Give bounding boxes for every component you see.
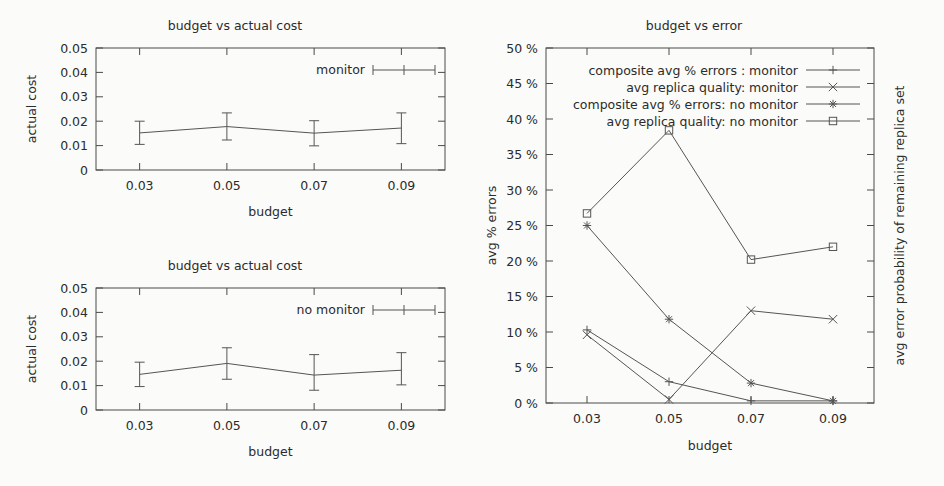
y-tick-label: 0.05 bbox=[60, 281, 88, 296]
y-axis-label: actual cost bbox=[24, 315, 39, 383]
chart-budget-vs-error: budget vs error 0 %5 %10 %15 %20 %25 %30… bbox=[474, 18, 944, 480]
y-tick-label: 0.04 bbox=[60, 65, 88, 80]
x-tick-label: 0.07 bbox=[300, 178, 328, 193]
error-bar bbox=[309, 355, 319, 391]
chart-title: budget vs actual cost bbox=[0, 18, 470, 33]
y-tick-label: 50 % bbox=[506, 41, 538, 56]
y-tick-label: 0.01 bbox=[60, 138, 88, 153]
y-tick-label: 5 % bbox=[514, 360, 538, 375]
x-tick-label: 0.05 bbox=[655, 411, 683, 426]
y-tick-label: 0.03 bbox=[60, 329, 88, 344]
legend-label: composite avg % errors : monitor bbox=[589, 63, 799, 78]
x-tick-label: 0.09 bbox=[819, 411, 847, 426]
y-tick-label: 0 bbox=[80, 403, 88, 418]
y-tick-label: 45 % bbox=[506, 76, 538, 91]
series-line bbox=[140, 127, 402, 134]
series-line bbox=[587, 311, 833, 400]
marker-star bbox=[665, 315, 673, 323]
marker-plus bbox=[665, 378, 673, 386]
y-tick-label: 0.04 bbox=[60, 305, 88, 320]
y-tick-label: 10 % bbox=[506, 325, 538, 340]
marker-plus bbox=[829, 66, 837, 74]
plot-frame bbox=[96, 288, 445, 410]
legend-label: monitor bbox=[316, 62, 366, 77]
error-bar bbox=[396, 353, 406, 385]
series-line bbox=[587, 226, 833, 401]
marker-star bbox=[829, 397, 837, 405]
legend-sample bbox=[806, 83, 860, 91]
legend-sample-errorbar bbox=[373, 305, 435, 315]
x-tick-label: 0.05 bbox=[213, 418, 241, 433]
y-tick-label: 0.05 bbox=[60, 41, 88, 56]
marker-star bbox=[829, 100, 837, 108]
chart-budget-vs-actual-cost-monitor: budget vs actual cost 00.010.020.030.040… bbox=[0, 18, 470, 223]
y-tick-label: 20 % bbox=[506, 254, 538, 269]
y-tick-label: 0.01 bbox=[60, 378, 88, 393]
y-tick-label: 40 % bbox=[506, 112, 538, 127]
y-tick-label: 0.02 bbox=[60, 354, 88, 369]
y-tick-label: 0 % bbox=[514, 396, 538, 411]
x-tick-label: 0.07 bbox=[737, 411, 765, 426]
plot-area-error: 0 %5 %10 %15 %20 %25 %30 %35 %40 %45 %50… bbox=[474, 18, 944, 478]
y-axis-label-left: avg % errors bbox=[484, 186, 499, 266]
plot-area-no-monitor: 00.010.020.030.040.050.030.050.070.09bud… bbox=[0, 258, 470, 463]
y-tick-label: 25 % bbox=[506, 218, 538, 233]
x-tick-label: 0.03 bbox=[126, 418, 154, 433]
x-tick-label: 0.07 bbox=[300, 418, 328, 433]
y-axis-label: actual cost bbox=[24, 75, 39, 143]
series-line bbox=[587, 330, 833, 401]
marker-star bbox=[747, 379, 755, 387]
x-tick-label: 0.05 bbox=[213, 178, 241, 193]
chart-title: budget vs error bbox=[484, 18, 904, 33]
legend-sample-errorbar bbox=[373, 65, 435, 75]
series-line bbox=[587, 130, 833, 259]
x-tick-label: 0.09 bbox=[387, 418, 415, 433]
x-axis-label: budget bbox=[248, 204, 292, 219]
x-axis-label: budget bbox=[248, 444, 292, 459]
series-line bbox=[140, 363, 402, 375]
chart-budget-vs-actual-cost-no-monitor: budget vs actual cost 00.010.020.030.040… bbox=[0, 258, 470, 463]
y-axis-label-right: avg error probability of remaining repli… bbox=[892, 85, 907, 365]
y-tick-label: 15 % bbox=[506, 289, 538, 304]
plot-area-monitor: 00.010.020.030.040.050.030.050.070.09bud… bbox=[0, 18, 470, 223]
marker-plus bbox=[583, 326, 591, 334]
marker-star bbox=[583, 221, 591, 229]
legend-sample bbox=[806, 100, 860, 108]
legend-label: avg replica quality: no monitor bbox=[607, 114, 799, 129]
x-tick-label: 0.03 bbox=[573, 411, 601, 426]
legend-sample bbox=[806, 117, 860, 124]
x-tick-label: 0.09 bbox=[387, 178, 415, 193]
chart-title: budget vs actual cost bbox=[0, 258, 470, 273]
legend-label: avg replica quality: monitor bbox=[626, 80, 799, 95]
legend-sample bbox=[806, 66, 860, 74]
y-tick-label: 0 bbox=[80, 163, 88, 178]
legend-label: composite avg % errors: no monitor bbox=[573, 97, 799, 112]
y-tick-label: 30 % bbox=[506, 183, 538, 198]
marker-plus bbox=[747, 397, 755, 405]
y-tick-label: 35 % bbox=[506, 147, 538, 162]
y-tick-label: 0.03 bbox=[60, 89, 88, 104]
plot-frame bbox=[96, 48, 445, 170]
legend-label: no monitor bbox=[297, 302, 366, 317]
y-tick-label: 0.02 bbox=[60, 114, 88, 129]
x-tick-label: 0.03 bbox=[126, 178, 154, 193]
chart-page: { "page": { "background": "#fbfbf9", "in… bbox=[0, 0, 944, 486]
x-axis-label: budget bbox=[688, 438, 732, 453]
